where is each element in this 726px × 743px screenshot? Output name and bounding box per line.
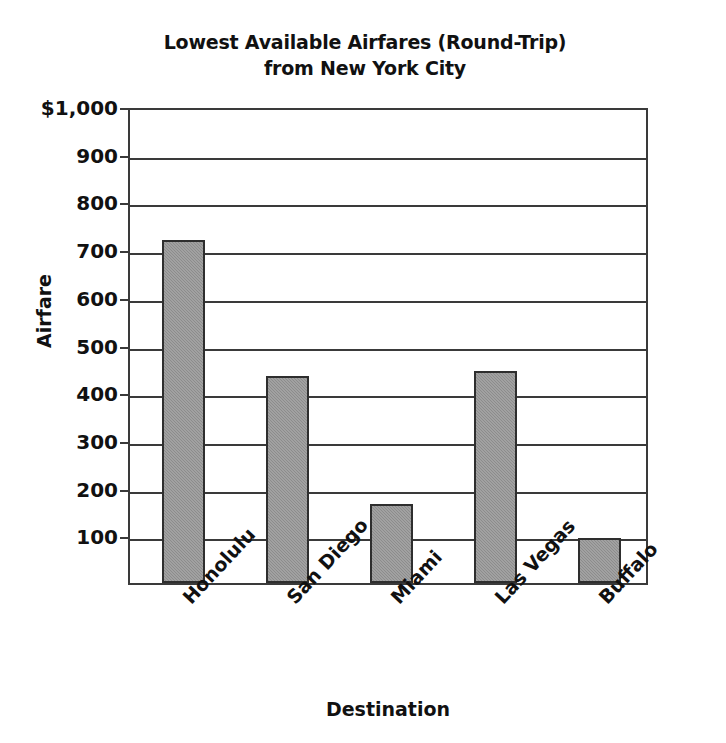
bar [474, 371, 517, 583]
x-axis-tick-labels: HonoluluSan DiegoMiamiLas VegasBuffalo [128, 585, 648, 690]
chart-title-line-2: from New York City [60, 56, 670, 82]
y-axis-tick-mark [120, 490, 128, 492]
y-axis-tick-mark [120, 394, 128, 396]
y-axis-tick-marks [0, 108, 128, 585]
y-axis-tick-mark [120, 108, 128, 110]
x-axis-title: Destination [128, 698, 648, 720]
bars-layer [130, 110, 646, 583]
y-axis-tick-mark [120, 156, 128, 158]
chart-title-line-1: Lowest Available Airfares (Round-Trip) [60, 30, 670, 56]
plot-area [128, 108, 648, 585]
y-axis-tick-mark [120, 347, 128, 349]
y-axis-tick-mark [120, 203, 128, 205]
y-axis-tick-mark [120, 299, 128, 301]
y-axis-tick-mark [120, 537, 128, 539]
bar [266, 376, 309, 583]
airfare-bar-chart: Lowest Available Airfares (Round-Trip) f… [0, 0, 726, 743]
y-axis-tick-mark [120, 442, 128, 444]
y-axis-tick-mark [120, 251, 128, 253]
chart-title: Lowest Available Airfares (Round-Trip) f… [60, 30, 670, 81]
bar [162, 240, 205, 583]
